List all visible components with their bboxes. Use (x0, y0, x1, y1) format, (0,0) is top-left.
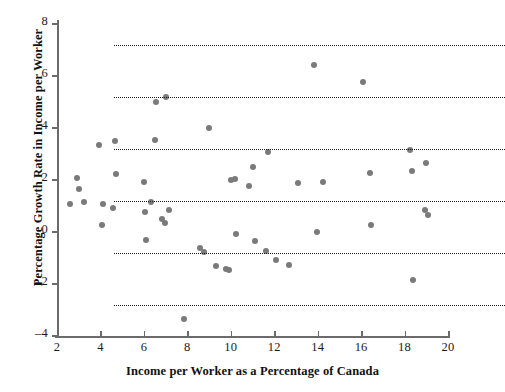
data-point (273, 257, 279, 263)
data-point (142, 209, 148, 215)
x-tick-label-20: 20 (433, 340, 463, 355)
x-tick-mark-6 (144, 331, 146, 337)
data-point (96, 142, 102, 148)
gridline-y-8 (114, 45, 505, 46)
y-tick-mark-8 (52, 23, 57, 25)
data-point (162, 220, 168, 226)
data-point (295, 180, 301, 186)
x-axis-line (55, 336, 450, 338)
data-point (252, 238, 258, 244)
gridline-y-4 (114, 149, 505, 150)
x-tick-mark-20 (448, 331, 450, 337)
data-point (314, 229, 320, 235)
x-tick-mark-2 (57, 331, 59, 337)
data-point (360, 79, 366, 85)
data-point (141, 179, 147, 185)
x-tick-mark-10 (231, 331, 233, 337)
y-axis-title: Percentage Growth Rate in Income per Wor… (31, 28, 46, 288)
data-point (410, 277, 416, 283)
x-tick-label-12: 12 (259, 340, 289, 355)
x-axis-title: Income per Worker as a Percentage of Can… (57, 364, 448, 379)
x-tick-mark-8 (187, 331, 189, 337)
x-tick-mark-18 (405, 331, 407, 337)
data-point (226, 267, 232, 273)
data-point (425, 212, 431, 218)
gridline-y--2 (114, 305, 505, 306)
x-tick-mark-4 (100, 331, 102, 337)
data-point (320, 179, 326, 185)
data-point (232, 176, 238, 182)
data-point (206, 125, 212, 131)
x-tick-mark-14 (318, 331, 320, 337)
data-point (74, 175, 80, 181)
data-point (367, 170, 373, 176)
x-tick-label-6: 6 (129, 340, 159, 355)
y-tick-mark--2 (52, 283, 57, 285)
plot-area (57, 23, 448, 335)
x-tick-label-4: 4 (85, 340, 115, 355)
x-tick-mark-16 (361, 331, 363, 337)
data-point (166, 207, 172, 213)
data-point (99, 222, 105, 228)
data-point (213, 263, 219, 269)
data-point (368, 222, 374, 228)
data-point (112, 138, 118, 144)
gridline-y-2 (114, 201, 505, 202)
x-tick-label-16: 16 (346, 340, 376, 355)
data-point (67, 201, 73, 207)
x-tick-mark-12 (274, 331, 276, 337)
data-point (110, 205, 116, 211)
data-point (311, 62, 317, 68)
y-tick-label--4: –4 (18, 326, 48, 341)
data-point (113, 171, 119, 177)
data-point (152, 137, 158, 143)
data-point (81, 199, 87, 205)
x-tick-label-2: 2 (42, 340, 72, 355)
data-point (100, 201, 106, 207)
y-tick-mark-4 (52, 127, 57, 129)
gridline-y-0 (114, 253, 505, 254)
y-axis-line (57, 20, 59, 338)
x-tick-label-10: 10 (216, 340, 246, 355)
x-tick-label-18: 18 (390, 340, 420, 355)
gridline-y-6 (114, 97, 505, 98)
x-tick-label-8: 8 (172, 340, 202, 355)
data-point (246, 183, 252, 189)
data-point (233, 231, 239, 237)
data-point (181, 316, 187, 322)
data-point (423, 160, 429, 166)
y-tick-mark-0 (52, 231, 57, 233)
data-point (286, 262, 292, 268)
data-point (409, 168, 415, 174)
y-tick-mark-6 (52, 75, 57, 77)
y-tick-mark-2 (52, 179, 57, 181)
x-tick-label-14: 14 (303, 340, 333, 355)
data-point (153, 99, 159, 105)
data-point (250, 164, 256, 170)
data-point (76, 186, 82, 192)
data-point (143, 237, 149, 243)
